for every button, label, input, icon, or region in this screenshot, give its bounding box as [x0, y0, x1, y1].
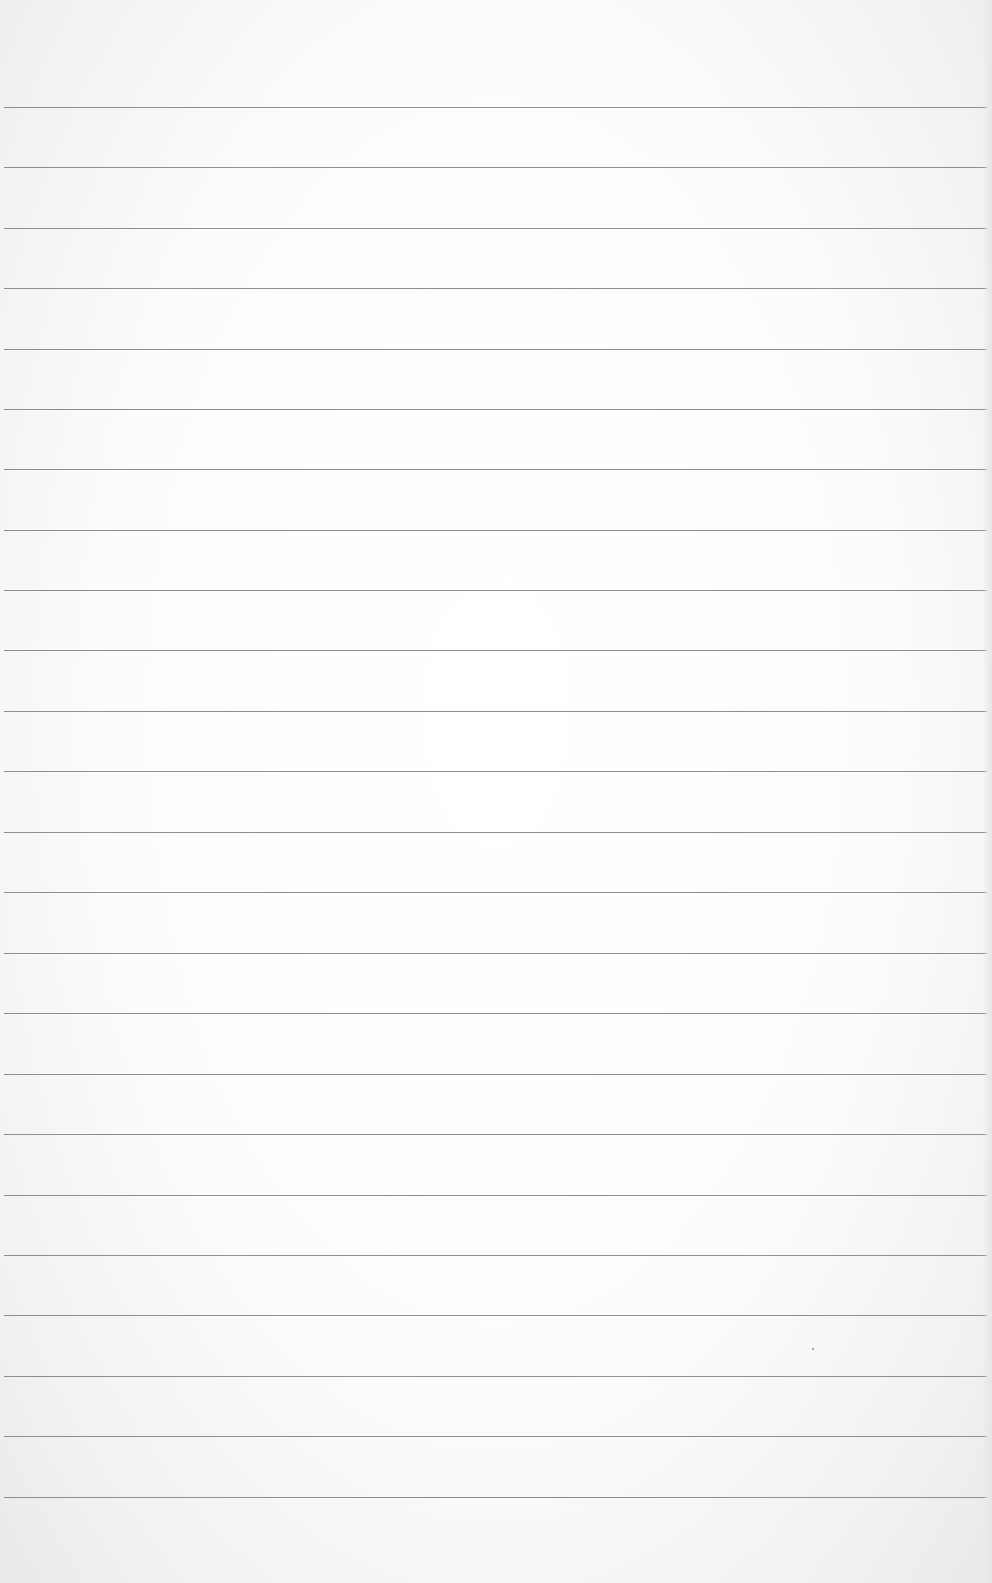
ruled-line — [4, 711, 987, 712]
ruled-line — [4, 892, 987, 893]
ruled-line — [4, 650, 987, 651]
ruled-line — [4, 1013, 987, 1014]
ruled-line — [4, 1074, 987, 1075]
ruled-line — [4, 1497, 987, 1498]
ruled-line — [4, 953, 987, 954]
paper-speck — [812, 1348, 814, 1350]
ruled-line — [4, 409, 987, 410]
ruled-line — [4, 1436, 987, 1437]
ruled-line — [4, 228, 987, 229]
ruled-line — [4, 771, 987, 772]
ruled-line — [4, 167, 987, 168]
ruled-line — [4, 1195, 987, 1196]
ruled-line — [4, 530, 987, 531]
ruled-line — [4, 1315, 987, 1316]
ruled-line — [4, 107, 987, 108]
ruled-line — [4, 832, 987, 833]
ruled-line — [4, 288, 987, 289]
ruled-line — [4, 590, 987, 591]
ruled-line — [4, 1376, 987, 1377]
ruled-line — [4, 1134, 987, 1135]
ruled-line — [4, 469, 987, 470]
ruled-line — [4, 349, 987, 350]
ruled-paper-sheet — [0, 0, 992, 1583]
ruled-line — [4, 1255, 987, 1256]
